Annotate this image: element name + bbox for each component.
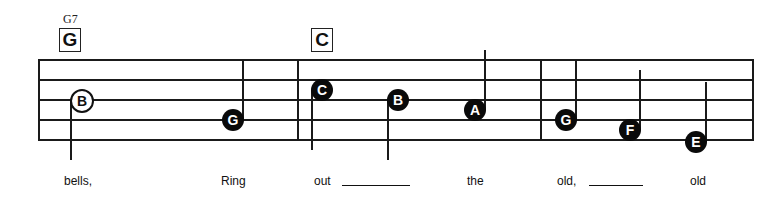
barline xyxy=(540,59,542,141)
lyric-word: old, xyxy=(557,174,576,188)
note-head-c: C xyxy=(311,79,333,101)
chord-alt-label: G7 xyxy=(63,12,78,27)
chord-symbol: C xyxy=(311,28,333,52)
note-stem xyxy=(242,60,244,120)
note-stem xyxy=(705,82,707,142)
note-head-e: E xyxy=(685,131,707,153)
note-head-f: F xyxy=(619,119,641,141)
note-head-b: B xyxy=(70,89,94,113)
staff-line xyxy=(39,119,753,121)
note-head-a: A xyxy=(464,99,486,121)
lyric-blank-line xyxy=(589,185,643,186)
note-stem xyxy=(484,50,486,110)
staff-line xyxy=(39,59,753,61)
lyric-word: bells, xyxy=(64,174,92,188)
lyric-word: old xyxy=(690,174,706,188)
staff-line xyxy=(39,79,753,81)
barline xyxy=(38,59,40,141)
note-head-g: G xyxy=(555,109,577,131)
note-stem xyxy=(70,100,72,160)
lyric-word: out xyxy=(314,174,331,188)
lyric-word: Ring xyxy=(221,174,246,188)
barline xyxy=(297,59,299,141)
note-stem xyxy=(387,100,389,160)
staff-line xyxy=(39,139,753,141)
note-head-b: B xyxy=(387,89,409,111)
chord-symbol: G xyxy=(59,28,81,52)
note-head-g: G xyxy=(222,109,244,131)
lyric-blank-line xyxy=(342,185,410,186)
note-stem xyxy=(639,70,641,130)
note-stem xyxy=(311,90,313,150)
barline xyxy=(752,59,754,141)
lyric-word: the xyxy=(467,174,484,188)
note-stem xyxy=(575,60,577,120)
